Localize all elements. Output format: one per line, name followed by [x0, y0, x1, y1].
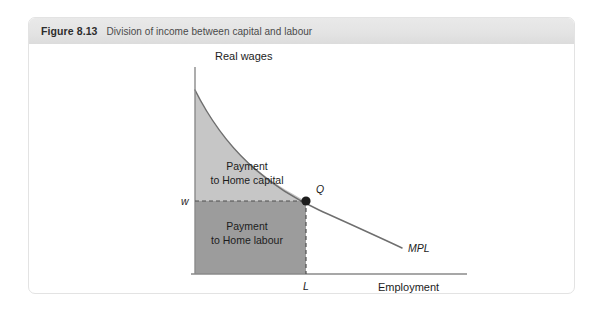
- equilibrium-point-marker: [301, 196, 310, 205]
- wage-tick-label: w: [181, 195, 190, 207]
- employment-tick-label: L: [303, 280, 309, 292]
- x-axis-label: Employment: [378, 281, 439, 293]
- capital-share-label-line2: to Home capital: [211, 174, 284, 186]
- mpl-curve-label: MPL: [408, 242, 430, 254]
- figure-header: Figure 8.13 Division of income between c…: [29, 18, 574, 45]
- figure-caption: Division of income between capital and l…: [107, 26, 313, 37]
- y-axis-label: Real wages: [215, 50, 273, 62]
- chart-plot-area: Real wages Employment Payment to Home ca…: [29, 45, 574, 294]
- labour-share-label-line1: Payment: [226, 220, 268, 232]
- labour-share-label-line2: to Home labour: [211, 234, 283, 246]
- equilibrium-point-label: Q: [316, 183, 324, 195]
- capital-share-label-line1: Payment: [226, 160, 268, 172]
- figure-number: Figure 8.13: [41, 25, 98, 37]
- mpl-diagram: Real wages Employment Payment to Home ca…: [29, 45, 575, 294]
- figure-card: Figure 8.13 Division of income between c…: [28, 17, 575, 294]
